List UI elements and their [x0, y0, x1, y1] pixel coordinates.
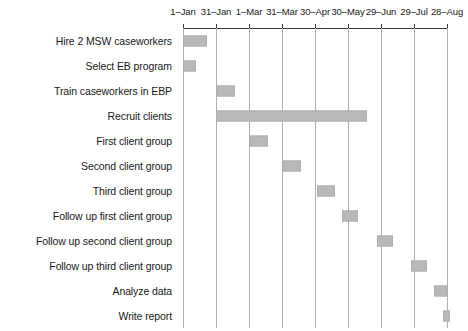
task-label: Follow up third client group — [49, 260, 172, 272]
vertical-gridline — [381, 28, 382, 328]
x-axis-tick-label: 30–Apr — [300, 6, 330, 17]
x-axis-tick-label: 1–Mar — [236, 6, 262, 17]
vertical-gridline — [414, 28, 415, 328]
gantt-bar — [250, 135, 268, 146]
task-label: Analyze data — [112, 285, 172, 297]
x-axis-tick-label: 29–Jul — [400, 6, 427, 17]
gantt-chart-figure: 1–Jan31–Jan1–Mar31–Mar30–Apr30–May29–Jun… — [0, 0, 468, 331]
vertical-gridline — [249, 28, 250, 328]
gantt-bar — [183, 60, 196, 71]
task-label-column: Hire 2 MSW caseworkersSelect EB programT… — [0, 28, 178, 328]
x-axis-tick-label: 1–Jan — [170, 6, 195, 17]
vertical-gridline — [282, 28, 283, 328]
gantt-bar — [443, 310, 450, 321]
x-axis-tick-label: 29–Jun — [366, 6, 397, 17]
plot-area — [183, 28, 447, 328]
task-label: Third client group — [93, 185, 172, 197]
vertical-gridline — [348, 28, 349, 328]
task-label: Second client group — [81, 160, 172, 172]
task-label: Recruit clients — [108, 110, 172, 122]
task-label: Hire 2 MSW caseworkers — [56, 35, 172, 47]
x-axis-tick-label: 28–Aug — [431, 6, 463, 17]
gantt-bar — [411, 260, 427, 271]
gantt-bar — [342, 210, 358, 221]
x-axis-tick-label: 31–Mar — [266, 6, 298, 17]
vertical-gridline — [315, 28, 316, 328]
gantt-bar — [216, 110, 367, 121]
task-label: First client group — [96, 135, 172, 147]
gantt-bar — [377, 235, 393, 246]
task-label: Train caseworkers in EBP — [54, 85, 172, 97]
gantt-bar — [434, 285, 447, 296]
vertical-gridline — [183, 28, 184, 328]
task-label: Write report — [119, 310, 172, 322]
x-axis-tick-label: 31–Jan — [201, 6, 232, 17]
x-axis-tick-label: 30–May — [331, 6, 364, 17]
x-axis-tick-label-row: 1–Jan31–Jan1–Mar31–Mar30–Apr30–May29–Jun… — [0, 0, 468, 22]
task-label: Follow up second client group — [36, 235, 172, 247]
gantt-bar — [317, 185, 335, 196]
gantt-bar — [183, 35, 207, 46]
task-label: Follow up first client group — [53, 210, 172, 222]
vertical-gridline — [447, 28, 448, 328]
vertical-gridline — [216, 28, 217, 328]
task-label: Select EB program — [86, 60, 172, 72]
gantt-bar — [283, 160, 301, 171]
gantt-bar — [217, 85, 235, 96]
